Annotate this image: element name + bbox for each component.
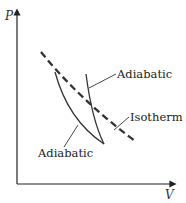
pv-diagram: P V Adiabatic Isotherm Adiabatic [0,0,186,203]
isotherm-curve [41,52,135,141]
label-adiabatic-left: Adiabatic [37,146,93,160]
adiabatic-left-curve [55,72,104,144]
x-axis-label: V [165,188,175,202]
leader-isotherm [114,117,129,130]
label-adiabatic-top: Adiabatic [116,67,172,81]
label-isotherm: Isotherm [130,110,183,124]
y-axis-label: P [4,9,14,23]
leader-adiabatic-left [64,125,78,147]
leader-adiabatic-top [89,74,116,88]
